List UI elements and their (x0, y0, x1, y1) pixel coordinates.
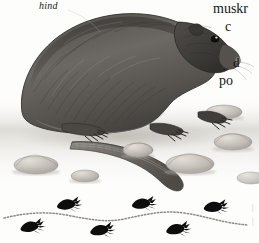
body-text-line: c (225, 18, 259, 36)
body-text-line: muskr (213, 0, 259, 18)
paw-print (203, 199, 230, 218)
edge-crop-mark: | (252, 214, 258, 228)
illustration-page: hind muskr c d po (0, 0, 259, 243)
label-hind: hind (39, 0, 58, 12)
edge-crop-mark: | (252, 200, 258, 214)
track-diagram-canvas (0, 192, 259, 243)
track-diagram (0, 192, 259, 243)
body-text-line: d (233, 54, 259, 72)
paw-print (131, 195, 158, 214)
body-text-line: po (219, 72, 259, 90)
edge-crop-marks: | | (252, 200, 258, 240)
paw-print (19, 217, 47, 238)
paw-print (89, 221, 117, 241)
paw-print (165, 220, 193, 240)
body-text-column: muskr c d po (213, 0, 259, 90)
paw-print (56, 196, 83, 215)
